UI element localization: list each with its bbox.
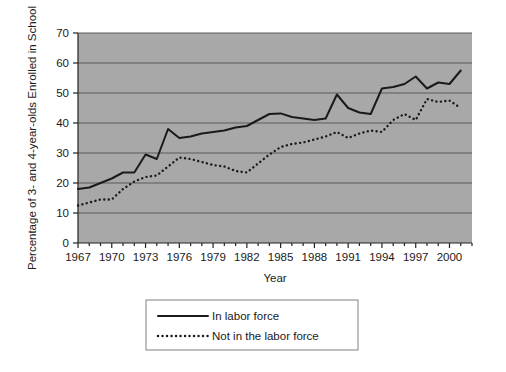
x-tick-label-1973: 1973 bbox=[133, 251, 159, 263]
x-tick-label-1970: 1970 bbox=[99, 251, 125, 263]
y-tick-label-0: 0 bbox=[63, 237, 69, 249]
legend-box bbox=[146, 300, 358, 350]
x-tick-label-1994: 1994 bbox=[369, 251, 395, 263]
x-tick-label-1982: 1982 bbox=[234, 251, 260, 263]
y-tick-label-50: 50 bbox=[56, 87, 69, 99]
chart-figure: 0102030405060701967197019731976197919821… bbox=[0, 0, 506, 372]
x-tick-label-2000: 2000 bbox=[437, 251, 463, 263]
legend-label-1: Not in the labor force bbox=[212, 330, 319, 342]
y-tick-label-70: 70 bbox=[56, 27, 69, 39]
y-tick-label-10: 10 bbox=[56, 207, 69, 219]
line-chart: 0102030405060701967197019731976197919821… bbox=[0, 0, 506, 372]
x-tick-label-1991: 1991 bbox=[335, 251, 361, 263]
x-tick-label-1997: 1997 bbox=[403, 251, 429, 263]
y-tick-label-30: 30 bbox=[56, 147, 69, 159]
plot-area-background bbox=[78, 33, 472, 243]
x-axis-title: Year bbox=[263, 272, 286, 284]
x-tick-label-1979: 1979 bbox=[200, 251, 226, 263]
y-tick-label-60: 60 bbox=[56, 57, 69, 69]
legend-label-0: In labor force bbox=[212, 310, 279, 322]
y-tick-label-20: 20 bbox=[56, 177, 69, 189]
y-axis-title: Percentage of 3- and 4-year-olds Enrolle… bbox=[26, 6, 38, 270]
x-tick-label-1976: 1976 bbox=[167, 251, 193, 263]
x-tick-label-1967: 1967 bbox=[65, 251, 91, 263]
x-tick-label-1985: 1985 bbox=[268, 251, 294, 263]
x-tick-label-1988: 1988 bbox=[302, 251, 328, 263]
y-tick-label-40: 40 bbox=[56, 117, 69, 129]
